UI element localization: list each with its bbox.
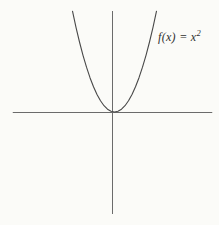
function-label-base: f(x) = x [158, 30, 196, 44]
figure-canvas: f(x) = x2 [0, 0, 219, 225]
function-label: f(x) = x2 [158, 30, 201, 45]
function-label-exponent: 2 [196, 28, 201, 38]
